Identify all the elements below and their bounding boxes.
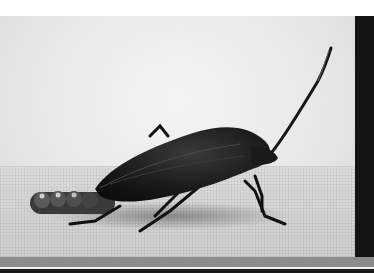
photo-frame: Grayscale macro photograph of a dark shi…: [0, 0, 374, 273]
bottom-gray-band: [0, 257, 374, 267]
insect-illustration: [0, 16, 355, 257]
top-margin: [0, 0, 374, 16]
right-dark-border: [355, 16, 374, 257]
insect-body: [95, 127, 270, 201]
photograph: [0, 16, 355, 257]
bottom-dark-border: [0, 269, 374, 273]
insect-antenna: [272, 48, 331, 152]
